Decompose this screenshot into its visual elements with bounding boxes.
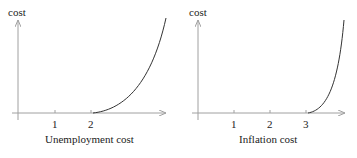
right-y-axis-label: cost bbox=[189, 6, 207, 18]
chart-canvas: cost 1 2 Unemployment cost cost 1 2 3 In… bbox=[0, 0, 357, 158]
right-tick-label-3: 3 bbox=[303, 118, 309, 130]
left-y-axis-label: cost bbox=[8, 6, 26, 18]
unemployment-cost-curve bbox=[93, 18, 166, 113]
inflation-cost-chart: cost 1 2 3 Inflation cost bbox=[189, 6, 345, 145]
right-tick-label-1: 1 bbox=[231, 118, 237, 130]
right-tick-label-2: 2 bbox=[267, 118, 273, 130]
left-tick-label-1: 1 bbox=[52, 118, 58, 130]
unemployment-cost-chart: cost 1 2 Unemployment cost bbox=[8, 6, 166, 145]
left-x-axis-label: Unemployment cost bbox=[45, 133, 134, 145]
inflation-cost-curve bbox=[308, 20, 344, 113]
right-x-axis-label: Inflation cost bbox=[239, 133, 297, 145]
left-tick-label-2: 2 bbox=[88, 118, 94, 130]
